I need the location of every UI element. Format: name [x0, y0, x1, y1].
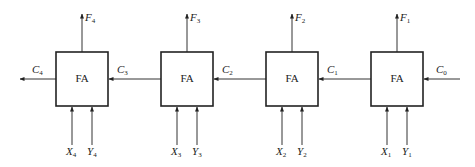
x-label-2: X2 [276, 146, 286, 159]
x-label-4: X4 [66, 146, 76, 159]
carry-label-2: C2 [222, 64, 233, 77]
carry-label-1: C1 [327, 64, 338, 77]
ripple-carry-adder-diagram: FAF4X4Y4C4FAF3X3Y3C3FAF2X2Y2C2FAF1X1Y1C1… [0, 0, 475, 167]
full-adder-label: FA [371, 73, 423, 84]
y-label-3: Y3 [192, 146, 202, 159]
sum-label-4: F4 [85, 12, 95, 25]
sum-label-3: F3 [190, 12, 200, 25]
y-label-4: Y4 [87, 146, 97, 159]
x-label-1: X1 [381, 146, 391, 159]
x-label-3: X3 [171, 146, 181, 159]
sum-label-1: F1 [400, 12, 410, 25]
sum-label-2: F2 [295, 12, 305, 25]
y-label-1: Y1 [402, 146, 412, 159]
y-label-2: Y2 [297, 146, 307, 159]
full-adder-label: FA [266, 73, 318, 84]
carry-label-3: C3 [117, 64, 128, 77]
carry-in-label: C0 [436, 64, 447, 77]
full-adder-label: FA [56, 73, 108, 84]
full-adder-label: FA [161, 73, 213, 84]
carry-label-4: C4 [32, 64, 43, 77]
